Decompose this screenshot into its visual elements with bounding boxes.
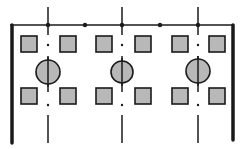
pier-square-top [60, 36, 76, 52]
pier-square-bottom [135, 88, 151, 104]
pier-square-top [172, 36, 188, 52]
bay-plan-diagram [0, 0, 245, 149]
pier-square-bottom [96, 88, 112, 104]
beam-node [83, 23, 87, 27]
axis-dot [197, 44, 199, 46]
pier-square-bottom [21, 88, 37, 104]
pier-square-top [135, 36, 151, 52]
axis-dot [121, 104, 123, 106]
pier-square-top [96, 36, 112, 52]
beam-node [158, 23, 162, 27]
pier-square-top [209, 36, 225, 52]
pier-square-bottom [209, 88, 225, 104]
axis-dot [47, 44, 49, 46]
columns [36, 56, 210, 87]
pier-square-top [21, 36, 37, 52]
pier-square-bottom [172, 88, 188, 104]
axis-dot [121, 44, 123, 46]
axis-dot [197, 104, 199, 106]
axis-dot [47, 104, 49, 106]
pier-square-bottom [60, 88, 76, 104]
